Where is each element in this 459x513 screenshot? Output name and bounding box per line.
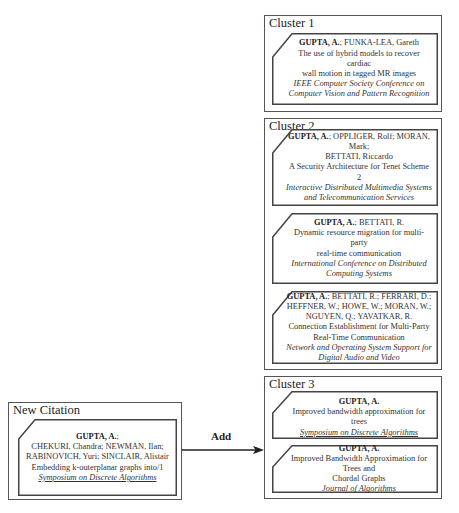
citation-title: Connection Establishment for Multi-Party… bbox=[288, 322, 429, 342]
citation-authors: GUPTA, A.; FUNKA-LEA, Gareth bbox=[299, 38, 419, 48]
citation-venue: Network and Operating System Support for… bbox=[286, 343, 431, 363]
citation-authors: GUPTA, A.; OPPLIGER, Rolf; MORAN, Mark;B… bbox=[286, 132, 432, 163]
cluster-2-panel: Cluster 2 GUPTA, A.; OPPLIGER, Rolf; MOR… bbox=[264, 118, 442, 370]
citation-title: A Security Architecture for Tenet Scheme… bbox=[286, 162, 432, 182]
citation-venue-link[interactable]: Symposium on Discrete Algorithms bbox=[39, 473, 157, 483]
citation-title: The use of hybrid models to recover card… bbox=[286, 49, 432, 80]
citation-title: Improved Bandwidth Approximation for Tre… bbox=[286, 454, 432, 485]
citation-title: Improved bandwidth approximation for tre… bbox=[286, 407, 432, 427]
citation-card[interactable]: GUPTA, A.; BETTATI, R. Dynamic resource … bbox=[272, 213, 438, 284]
cluster-1-title: Cluster 1 bbox=[269, 16, 314, 31]
citation-authors: GUPTA, A.; BETTATI, R. bbox=[314, 218, 404, 228]
citation-venue: International Conference on DistributedC… bbox=[291, 259, 426, 279]
citation-authors: GUPTA, A. bbox=[339, 397, 380, 407]
citation-card[interactable]: GUPTA, A.; FUNKA-LEA, Gareth The use of … bbox=[272, 33, 438, 105]
new-citation-card[interactable]: GUPTA, A.;CHEKURI, Chandra; NEWMAN, Ilan… bbox=[18, 419, 177, 496]
new-citation-title: New Citation bbox=[13, 403, 80, 418]
cluster-3-panel: Cluster 3 GUPTA, A. Improved bandwidth a… bbox=[264, 376, 442, 499]
citation-venue-link[interactable]: Symposium on Discrete Algorithms bbox=[300, 428, 418, 438]
citation-venue: Interactive Distributed Multimedia Syste… bbox=[286, 183, 432, 203]
citation-venue: Journal of Algorithms bbox=[322, 484, 396, 494]
cluster-3-title: Cluster 3 bbox=[269, 377, 314, 392]
add-label: Add bbox=[211, 430, 231, 442]
citation-card[interactable]: GUPTA, A.; BETTATI, R.; FERRARI, D.;HEFF… bbox=[272, 291, 438, 364]
citation-authors: GUPTA, A.;CHEKURI, Chandra; NEWMAN, Ilan… bbox=[26, 432, 169, 463]
citation-title: Dynamic resource migration for multi-par… bbox=[286, 228, 432, 259]
citation-authors: GUPTA, A. bbox=[339, 444, 380, 454]
cluster-1-panel: Cluster 1 GUPTA, A.; FUNKA-LEA, Gareth T… bbox=[264, 15, 442, 112]
citation-venue: IEEE Computer Society Conference onCompu… bbox=[289, 79, 430, 99]
citation-title: Embedding k-outerplanar graphs into/1 bbox=[32, 463, 164, 473]
citation-card[interactable]: GUPTA, A. Improved Bandwidth Approximati… bbox=[272, 445, 438, 493]
citation-authors: GUPTA, A.; BETTATI, R.; FERRARI, D.;HEFF… bbox=[287, 292, 432, 323]
citation-card[interactable]: GUPTA, A.; OPPLIGER, Rolf; MORAN, Mark;B… bbox=[272, 129, 438, 206]
new-citation-panel: New Citation GUPTA, A.;CHEKURI, Chandra;… bbox=[8, 402, 182, 500]
add-arrow-icon bbox=[182, 443, 266, 457]
citation-card[interactable]: GUPTA, A. Improved bandwidth approximati… bbox=[272, 391, 438, 439]
